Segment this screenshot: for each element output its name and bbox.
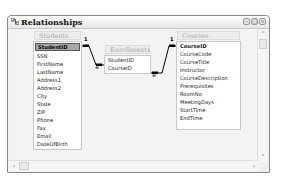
relationships-window: Relationships – □ × Students StudentIDSS… <box>7 15 270 173</box>
one-label-students: 1 <box>84 36 87 42</box>
scroll-left-button[interactable]: ‹ <box>10 162 18 170</box>
maximize-button[interactable]: □ <box>251 18 258 25</box>
one-label-courses: 1 <box>170 36 173 42</box>
relationships-canvas[interactable]: Students StudentIDSSNFirstNameLastNameAd… <box>9 29 259 162</box>
many-label-enrollments-course: ∞ <box>152 72 156 78</box>
scroll-right-button[interactable]: › <box>250 162 258 170</box>
many-label-enrollments-student: ∞ <box>95 64 99 70</box>
minimize-button[interactable]: – <box>243 18 250 25</box>
relationship-lines[interactable] <box>9 29 259 162</box>
vertical-scroll-thumb[interactable] <box>259 39 267 49</box>
window-title: Relationships <box>21 16 82 28</box>
relationships-icon <box>11 18 19 25</box>
horizontal-scrollbar[interactable]: ‹ › <box>9 160 259 171</box>
scroll-down-button[interactable]: ˅ <box>259 153 267 161</box>
scroll-up-button[interactable]: ˄ <box>259 30 267 38</box>
horizontal-scroll-thumb[interactable] <box>19 162 29 170</box>
close-button[interactable]: × <box>259 18 266 25</box>
vertical-scrollbar[interactable]: ˄ ˅ <box>257 29 268 162</box>
title-bar[interactable]: Relationships – □ × <box>8 16 269 29</box>
